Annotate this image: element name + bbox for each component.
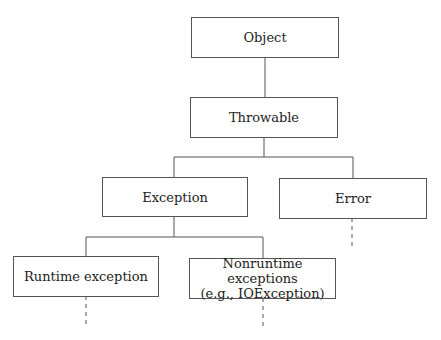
node-throwable-label: Throwable [229,110,299,125]
node-nonruntime-exceptions: Nonruntime exceptions (e.g., IOException… [189,258,336,299]
node-error-label: Error [335,191,371,206]
node-runtime-exception: Runtime exception [13,256,159,297]
node-exception-label: Exception [142,190,208,205]
node-object: Object [191,17,339,58]
node-throwable: Throwable [190,97,338,138]
node-nonruntime-label-line2: (e.g., IOException) [200,286,324,301]
node-exception: Exception [102,177,248,217]
node-object-label: Object [243,30,286,45]
node-nonruntime-label-line1: Nonruntime exceptions [190,256,335,286]
node-error: Error [279,178,427,219]
node-runtime-label: Runtime exception [24,269,148,284]
